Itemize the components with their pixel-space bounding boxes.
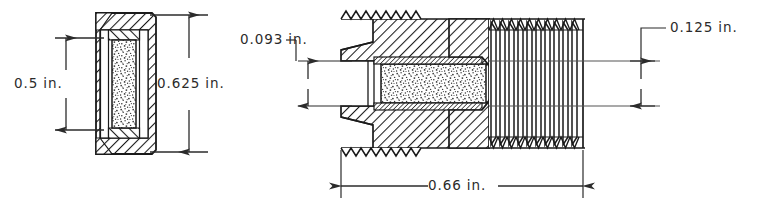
left-view-porous-element [112,40,136,128]
right-side-view [341,11,660,156]
left-end-view [96,13,156,154]
external-thread [489,19,585,148]
lower-retainer-ring [374,103,482,110]
dimension-overall-length: 0.66 in. [341,150,583,198]
dimension-bore-diameter: 0.093 in. [240,31,352,106]
dimension-left-outer-height: 0.625 in. [150,15,225,152]
dimension-left-inner-height: 0.5 in. [14,38,104,130]
dimension-label-bore-diameter: 0.093 in. [240,31,308,47]
drawing-canvas: 0.5 in. 0.625 in. [0,0,768,224]
lower-internal-thread-teeth [341,148,421,156]
dimension-label-thread-minor: 0.125 in. [670,19,738,35]
dimension-label-left-outer-height: 0.625 in. [157,75,225,91]
dimension-thread-minor: 0.125 in. [630,19,738,106]
upper-retainer-ring [374,57,482,64]
right-view-porous-element [381,64,486,103]
dimension-label-overall-length: 0.66 in. [428,177,486,193]
engineering-drawing: 0.5 in. 0.625 in. [0,0,768,224]
dimension-label-left-inner-height: 0.5 in. [14,75,63,91]
upper-internal-thread-teeth [341,11,421,19]
